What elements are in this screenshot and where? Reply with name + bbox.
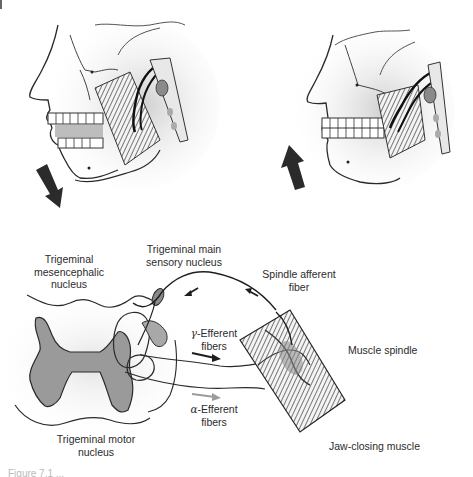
- label-jaw-closing-muscle: Jaw-closing muscle: [329, 440, 420, 453]
- jaw-reflex-figure: Trigeminal mesencephalic nucleus Trigemi…: [0, 0, 473, 477]
- label-text: -Efferent: [198, 403, 238, 415]
- arrow-down-icon: [36, 164, 63, 208]
- arrow-up-icon: [281, 145, 305, 190]
- label-trigeminal-main-sensory-nucleus: Trigeminal main sensory nucleus: [143, 243, 225, 268]
- label-line: α-Efferent: [182, 403, 246, 416]
- label-line: fibers: [182, 416, 246, 429]
- label-line: fiber: [259, 281, 339, 294]
- alpha-symbol: α: [190, 403, 197, 415]
- label-line: fibers: [182, 340, 246, 353]
- label-trigeminal-mesencephalic-nucleus: Trigeminal mesencephalic nucleus: [28, 253, 110, 291]
- label-line: Trigeminal: [28, 253, 110, 266]
- label-trigeminal-motor-nucleus: Trigeminal motor nucleus: [55, 433, 137, 458]
- label-spindle-afferent-fiber: Spindle afferent fiber: [259, 268, 339, 293]
- label-line: Trigeminal main: [143, 243, 225, 256]
- label-text: -Efferent: [197, 327, 237, 339]
- label-line: nucleus: [55, 446, 137, 459]
- label-line: γ-Efferent: [182, 327, 246, 340]
- label-muscle-spindle: Muscle spindle: [348, 344, 417, 357]
- label-line: Spindle afferent: [259, 268, 339, 281]
- head-jaw-open: [30, 20, 220, 208]
- label-line: mesencephalic: [28, 266, 110, 279]
- reflex-pathway-diagram: [0, 272, 345, 435]
- label-line: nucleus: [28, 278, 110, 291]
- figure-caption-clipped: Figure 7.1 ...: [8, 467, 473, 477]
- label-line: Trigeminal motor: [55, 433, 137, 446]
- head-jaw-closed: [281, 30, 455, 190]
- caption-text: Figure 7.1 ...: [8, 467, 473, 477]
- label-alpha-efferent-fibers: α-Efferent fibers: [182, 403, 246, 428]
- label-line: sensory nucleus: [143, 256, 225, 269]
- label-gamma-efferent-fibers: γ-Efferent fibers: [182, 327, 246, 352]
